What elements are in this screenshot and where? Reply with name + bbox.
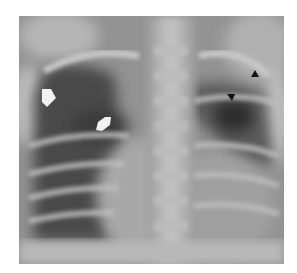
- white-arrow-right-hilar-icon: [96, 116, 112, 132]
- chest-xray-image: [19, 16, 284, 264]
- black-arrowhead-apical-icon: [251, 70, 259, 77]
- white-arrow-right-upper-icon: [41, 88, 57, 108]
- xray-rendering: [19, 16, 284, 264]
- black-arrowhead-upper-zone-icon: [227, 94, 235, 101]
